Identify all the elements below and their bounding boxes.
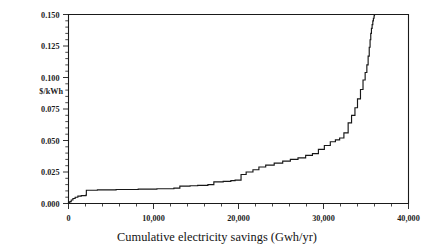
x-axis-title: Cumulative electricity savings (Gwh/yr) [117, 230, 317, 244]
x-tick-label: 30,000 [312, 214, 335, 223]
y-tick-label: 0.100 [41, 74, 59, 83]
y-tick-label: 0.000 [41, 200, 59, 209]
y-tick-label: 0.025 [41, 168, 59, 177]
y-tick-label: 0.050 [41, 137, 59, 146]
x-tick-label: 10,000 [142, 214, 165, 223]
data-series-supply-curve [69, 15, 375, 204]
x-axis-ticks [69, 204, 409, 210]
y-axis-title: $/kWh [39, 87, 63, 96]
x-axis-tick-labels: 010,00020,00030,00040,000 [66, 214, 419, 223]
chart-figure: 0.0000.0250.0500.0750.1000.1250.150 010,… [0, 0, 426, 249]
y-tick-label: 0.075 [41, 105, 59, 114]
y-tick-label: 0.125 [41, 42, 59, 51]
y-axis-ticks [63, 15, 69, 204]
x-tick-label: 20,000 [227, 214, 250, 223]
x-tick-label: 40,000 [397, 214, 420, 223]
plot-border [69, 15, 409, 204]
y-tick-label: 0.150 [41, 11, 59, 20]
y-axis-tick-labels: 0.0000.0250.0500.0750.1000.1250.150 [41, 11, 59, 209]
supply-curve-chart: 0.0000.0250.0500.0750.1000.1250.150 010,… [0, 0, 426, 249]
plot-frame [69, 15, 409, 204]
x-tick-label: 0 [66, 214, 70, 223]
